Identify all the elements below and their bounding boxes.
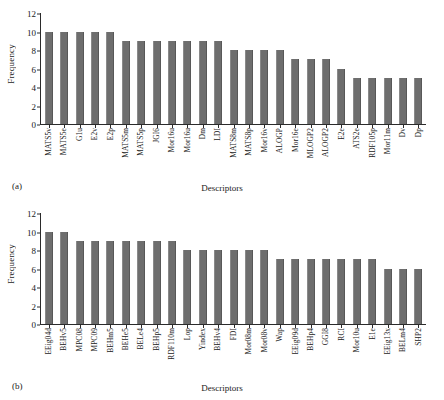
bar (384, 78, 392, 124)
bar (245, 50, 253, 124)
x-tick-label: MATS5m (122, 128, 129, 158)
y-tick-mark (37, 214, 40, 215)
bar (153, 241, 161, 324)
x-label-slot: BELm4 (395, 328, 410, 380)
bar-slot (87, 13, 102, 124)
x-label-slot: JGI6 (149, 128, 164, 180)
bar-slot (180, 213, 195, 324)
bar (260, 50, 268, 124)
plot-area-b: Frequency 024681012 EEig04dBEHv5MPC08MPC… (0, 200, 444, 400)
x-tick-label: BELe4 (137, 328, 144, 349)
x-axis-tick-labels-a: MATS5vMATS5eG1uE2vE2pMATS5mMATS5pJGI6Mor… (41, 128, 426, 180)
bar-slot (103, 213, 118, 324)
bar (137, 41, 145, 124)
x-tick-label: RDF105p (369, 128, 376, 158)
bar (214, 41, 222, 124)
bar-slot (349, 13, 364, 124)
y-tick-label: 4 (18, 284, 36, 293)
bar (399, 78, 407, 124)
bar-slot (210, 13, 225, 124)
bar-slot (41, 213, 56, 324)
bar-slot (164, 13, 179, 124)
x-tick-label: Mor08v (261, 328, 268, 352)
x-tick-label: FDI (230, 328, 237, 340)
axes-a (40, 13, 426, 125)
x-label-slot: BEHv5 (56, 328, 71, 380)
y-tick-mark (37, 288, 40, 289)
x-label-slot: BELe4 (133, 328, 148, 380)
x-axis-label-a: Descriptors (0, 183, 444, 193)
x-tick-label: E2p (107, 128, 114, 140)
bar (122, 241, 130, 324)
bar (76, 241, 84, 324)
bar-slot (195, 13, 210, 124)
x-tick-label: MATS5p (137, 128, 144, 156)
x-tick-label: EEig09d (292, 328, 299, 355)
bar (368, 78, 376, 124)
bar (291, 59, 299, 124)
x-tick-label: JGI6 (153, 128, 160, 143)
y-tick-label: 2 (18, 102, 36, 111)
x-tick-label: SHP2 (415, 328, 422, 346)
x-tick-label: MATS5e (60, 128, 67, 155)
bar (168, 41, 176, 124)
x-label-slot: Mor16u (164, 128, 179, 180)
bar (307, 59, 315, 124)
x-tick-label: Yindex (199, 328, 206, 350)
bar (322, 259, 330, 324)
bar-series-b (41, 213, 426, 324)
bar-slot (241, 213, 256, 324)
x-tick-label: BEHv5 (60, 328, 67, 351)
bar-slot (56, 13, 71, 124)
x-tick-label: EEig13x (384, 328, 391, 355)
x-label-slot: Dm (195, 128, 210, 180)
chart-panel-b: Frequency 024681012 EEig04dBEHv5MPC08MPC… (0, 200, 444, 400)
bar (230, 250, 238, 324)
y-tick-label: 8 (18, 247, 36, 256)
x-label-slot: Dp (411, 128, 426, 180)
x-label-slot: GGI8 (318, 328, 333, 380)
axes-b (40, 213, 426, 325)
bar-slot (288, 13, 303, 124)
x-label-slot: Lop (180, 328, 195, 380)
x-tick-label: BEHe5 (122, 328, 129, 350)
bar (76, 32, 84, 125)
x-tick-label: MATS5v (45, 128, 52, 156)
bar (45, 32, 53, 125)
bar (260, 250, 268, 324)
x-tick-label: MLOGP2 (307, 128, 314, 158)
x-tick-label: ALOGP (276, 128, 283, 153)
bar-slot (118, 213, 133, 324)
bar-slot (349, 213, 364, 324)
bar-slot (365, 213, 380, 324)
x-label-slot: MPC08 (72, 328, 87, 380)
bar-slot (164, 213, 179, 324)
y-tick-mark (37, 232, 40, 233)
x-label-slot: Wap (272, 328, 287, 380)
bar (414, 78, 422, 124)
x-label-slot: BEHe5 (118, 328, 133, 380)
x-label-slot: MLOGP2 (303, 128, 318, 180)
x-label-slot: ALOGP2 (318, 128, 333, 180)
x-label-slot: MATS5p (133, 128, 148, 180)
bar (230, 50, 238, 124)
bar-slot (149, 13, 164, 124)
x-tick-label: ATS2e (353, 128, 360, 149)
y-tick-mark (37, 32, 40, 33)
bar (353, 259, 361, 324)
bar (399, 269, 407, 325)
bar-slot (195, 213, 210, 324)
x-tick-label: BELm4 (399, 328, 406, 352)
bar-slot (272, 213, 287, 324)
x-axis-label-b: Descriptors (0, 383, 444, 393)
x-label-slot: E1e (365, 328, 380, 380)
x-label-slot: Mor11m (380, 128, 395, 180)
y-tick-label: 0 (18, 121, 36, 130)
bar (276, 259, 284, 324)
bar-slot (303, 13, 318, 124)
x-label-slot: MATS5m (118, 128, 133, 180)
x-label-slot: MATS5e (56, 128, 71, 180)
y-tick-mark (37, 69, 40, 70)
x-label-slot: E2p (103, 128, 118, 180)
bar-slot (365, 13, 380, 124)
